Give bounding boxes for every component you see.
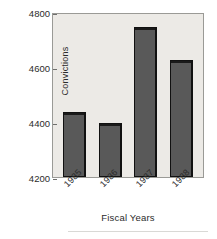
bar-slot-1986 — [97, 14, 123, 177]
plot-inner — [53, 14, 203, 177]
y-axis-title: Convictions — [60, 21, 70, 121]
bar-group — [53, 14, 203, 177]
bar-chart-screenshot: Convictions 4800 4600 4400 4200 1985 198… — [0, 0, 217, 239]
bottom-divider — [68, 231, 208, 232]
y-tick-mark-4800 — [53, 14, 57, 15]
x-axis-title: Fiscal Years — [52, 212, 204, 223]
x-label-slot-1988: 1988 — [169, 180, 195, 208]
y-tick-label-4600: 4600 — [29, 64, 50, 74]
bar-1987[interactable] — [134, 27, 157, 177]
y-tick-label-4800: 4800 — [29, 9, 50, 19]
bar-slot-1987 — [133, 14, 159, 177]
x-label-slot-1985: 1985 — [61, 180, 87, 208]
bar-1988[interactable] — [170, 60, 193, 177]
y-tick-label-4200: 4200 — [29, 174, 50, 184]
plot-area: Convictions 4800 4600 4400 4200 — [52, 13, 204, 178]
y-tick-mark-4600 — [53, 69, 57, 70]
x-axis-tick-labels: 1985 1986 1987 1988 — [52, 180, 204, 208]
x-label-slot-1986: 1986 — [97, 180, 123, 208]
bar-slot-1988 — [168, 14, 194, 177]
y-tick-label-4400: 4400 — [29, 119, 50, 129]
x-label-slot-1987: 1987 — [133, 180, 159, 208]
y-tick-mark-4400 — [53, 124, 57, 125]
